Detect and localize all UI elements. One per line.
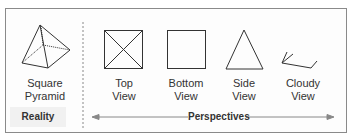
bottom-view-label: Bottom View: [160, 77, 212, 103]
cloudy-view-icon: [282, 52, 317, 68]
bottom-view-icon: [168, 31, 206, 69]
label-line: View: [98, 90, 150, 103]
label-line: Top: [98, 77, 150, 90]
reality-label: Reality: [10, 111, 66, 122]
label-line: Bottom: [160, 77, 212, 90]
side-view-label: Side View: [218, 77, 270, 103]
top-view-label: Top View: [98, 77, 150, 103]
label-line: Cloudy: [277, 77, 329, 90]
cloudy-view-label: Cloudy View: [277, 77, 329, 103]
label-line: View: [218, 90, 270, 103]
square-pyramid-icon: [22, 25, 70, 68]
top-view-icon: [105, 31, 143, 69]
label-line: Pyramid: [15, 90, 75, 103]
label-line: Square: [15, 77, 75, 90]
perspectives-label: Perspectives: [188, 111, 246, 122]
label-line: Side: [218, 77, 270, 90]
label-line: View: [160, 90, 212, 103]
square-pyramid-label: Square Pyramid: [15, 77, 75, 103]
label-line: View: [277, 90, 329, 103]
side-view-icon: [226, 30, 263, 69]
